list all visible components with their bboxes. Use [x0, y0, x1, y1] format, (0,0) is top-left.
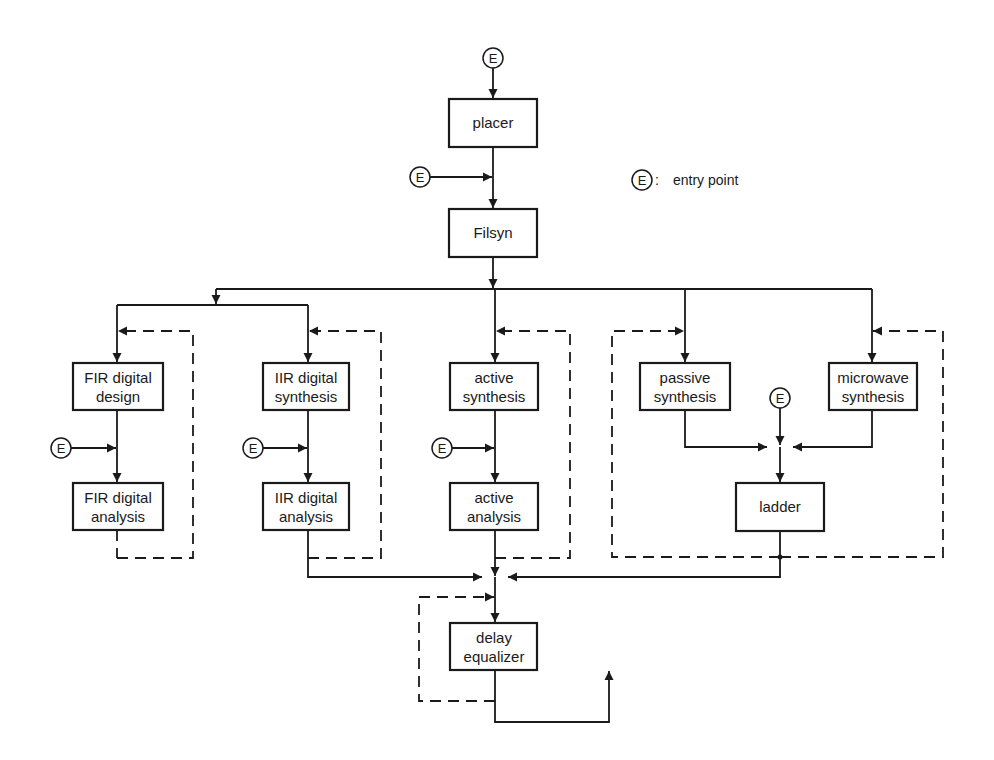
edge-delay-output	[495, 670, 609, 722]
svg-text:analysis: analysis	[91, 508, 145, 525]
svg-text:E: E	[438, 441, 447, 456]
svg-text:active: active	[474, 369, 513, 386]
node-placer[interactable]: placer	[449, 99, 537, 147]
svg-text:E: E	[776, 391, 785, 406]
svg-text:analysis: analysis	[467, 508, 521, 525]
node-iir-synthesis[interactable]: IIR digital synthesis	[263, 363, 349, 410]
entry-point-filsyn: E	[410, 167, 430, 187]
entry-point-iir: E	[243, 438, 263, 458]
edge-microwave-ladder	[793, 410, 872, 447]
entry-point-fir: E	[51, 438, 71, 458]
svg-text:IIR digital: IIR digital	[275, 489, 338, 506]
svg-text:analysis: analysis	[279, 508, 333, 525]
entry-point-top: E	[483, 48, 503, 68]
node-microwave-synthesis[interactable]: microwave synthesis	[829, 363, 917, 410]
svg-text:passive: passive	[660, 369, 711, 386]
entry-point-ladder: E	[770, 388, 790, 408]
legend-separator: :	[655, 172, 659, 188]
node-filsyn[interactable]: Filsyn	[449, 209, 537, 257]
legend-label: entry point	[673, 172, 738, 188]
filter-design-flow-diagram: E placer E Filsyn FIR digital design E F…	[0, 0, 994, 760]
edge-ladder-to-junction	[508, 531, 780, 577]
node-iir-analysis[interactable]: IIR digital analysis	[263, 483, 349, 530]
node-active-analysis[interactable]: active analysis	[450, 483, 538, 530]
svg-text:synthesis: synthesis	[654, 388, 717, 405]
svg-text:design: design	[96, 388, 140, 405]
node-fir-design[interactable]: FIR digital design	[73, 363, 163, 410]
node-delay-equalizer[interactable]: delay equalizer	[450, 623, 537, 670]
svg-text:delay: delay	[476, 629, 512, 646]
node-fir-analysis[interactable]: FIR digital analysis	[73, 483, 163, 530]
svg-text:E: E	[489, 51, 498, 66]
entry-point-active: E	[432, 438, 452, 458]
node-ladder[interactable]: ladder	[736, 483, 824, 531]
node-active-synthesis[interactable]: active synthesis	[450, 363, 538, 410]
svg-text:synthesis: synthesis	[275, 388, 338, 405]
svg-text:E: E	[249, 441, 258, 456]
svg-text:FIR digital: FIR digital	[84, 369, 152, 386]
legend: E : entry point	[632, 170, 738, 190]
svg-text:microwave: microwave	[837, 369, 909, 386]
svg-text:active: active	[474, 489, 513, 506]
svg-text:equalizer: equalizer	[464, 648, 525, 665]
svg-text:ladder: ladder	[759, 498, 801, 515]
svg-text:FIR digital: FIR digital	[84, 489, 152, 506]
svg-text:E: E	[638, 173, 647, 188]
edge-iir-to-junction	[308, 530, 482, 577]
svg-text:E: E	[416, 170, 425, 185]
svg-text:Filsyn: Filsyn	[473, 224, 512, 241]
node-passive-synthesis[interactable]: passive synthesis	[640, 363, 730, 410]
edge-passive-ladder	[685, 410, 767, 447]
svg-text:synthesis: synthesis	[463, 388, 526, 405]
svg-text:placer: placer	[473, 114, 514, 131]
junction-dot	[778, 555, 783, 560]
svg-text:IIR digital: IIR digital	[275, 369, 338, 386]
svg-text:E: E	[57, 441, 66, 456]
svg-text:synthesis: synthesis	[842, 388, 905, 405]
